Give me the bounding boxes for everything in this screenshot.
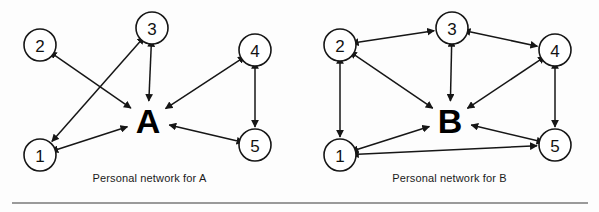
node-label: 1	[335, 147, 344, 166]
node-2: 2	[24, 29, 56, 61]
node-label: 3	[447, 20, 456, 39]
edge-4-A	[166, 60, 240, 109]
node-1: 1	[24, 139, 56, 171]
node-label: 4	[550, 42, 559, 61]
network-graph-a: A23415	[0, 0, 299, 175]
node-label: 1	[35, 147, 44, 166]
panel-a-caption: Personal network for A	[0, 172, 299, 184]
edge-3-4	[470, 32, 538, 46]
node-4: 4	[239, 34, 271, 66]
edge-1-A	[57, 127, 127, 150]
edge-3-B	[450, 46, 451, 101]
node-label: 4	[250, 42, 259, 61]
node-2: 2	[324, 29, 356, 61]
edge-4-B	[467, 60, 540, 108]
edge-3-A	[149, 46, 151, 101]
node-label: 2	[35, 37, 44, 56]
network-panel-a: A23415 Personal network for A	[0, 0, 299, 200]
edge-1-B	[357, 127, 429, 150]
edge-1-5	[358, 146, 537, 154]
hub-label: A	[136, 102, 161, 140]
edge-2-A	[55, 55, 131, 108]
hub-label: B	[438, 102, 463, 140]
edge-5-A	[169, 125, 237, 141]
edge-5-B	[471, 125, 537, 141]
hub-node-b: B	[432, 102, 468, 140]
network-panel-b: B23415 Personal network for B	[300, 0, 599, 200]
node-label: 5	[250, 137, 259, 156]
node-label: 2	[335, 37, 344, 56]
node-3: 3	[136, 12, 168, 44]
node-label: 3	[147, 20, 156, 39]
edge-2-3	[358, 31, 434, 43]
node-1: 1	[324, 139, 356, 171]
node-5: 5	[539, 129, 571, 161]
edge-2-B	[355, 55, 433, 108]
personal-networks-figure: A23415 Personal network for A B23415 Per…	[0, 0, 599, 212]
panel-b-caption: Personal network for B	[300, 172, 599, 184]
hub-node-a: A	[130, 102, 166, 140]
node-4: 4	[539, 34, 571, 66]
bottom-divider	[12, 202, 588, 204]
node-3: 3	[436, 12, 468, 44]
node-label: 5	[550, 137, 559, 156]
network-graph-b: B23415	[300, 0, 599, 175]
node-5: 5	[239, 129, 271, 161]
